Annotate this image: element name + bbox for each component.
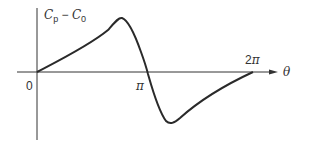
y-label-minus: − <box>58 8 72 22</box>
y-label-c2: C <box>72 8 81 22</box>
y-label-c: C <box>44 8 53 22</box>
x-tick-0: 0 <box>26 80 33 92</box>
curve-cp-minus-c0 <box>37 18 253 123</box>
x-tick-pi: π <box>136 80 144 92</box>
two-pi-number: 2 <box>245 53 252 67</box>
two-pi-symbol: π <box>252 53 260 67</box>
x-tick-2pi: 2π <box>245 54 260 66</box>
x-axis-label: θ <box>283 66 290 78</box>
y-axis-label: Cp − C0 <box>44 9 86 24</box>
y-label-sub-0: 0 <box>81 14 86 24</box>
x-axis-arrow-icon <box>269 70 278 75</box>
